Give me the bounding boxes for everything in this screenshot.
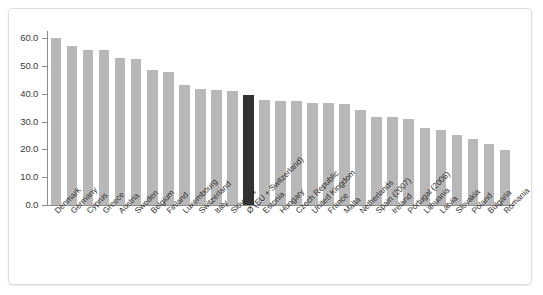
bar-austria[interactable] [115, 58, 126, 205]
bar-luxembourg[interactable] [179, 85, 190, 205]
bar-germany[interactable] [67, 46, 78, 205]
bar-finland[interactable] [163, 72, 174, 205]
bar-netherlands[interactable] [355, 110, 366, 205]
bar-greece[interactable] [99, 50, 110, 205]
bars-layer [0, 0, 543, 205]
bar-sweden[interactable] [131, 59, 142, 205]
y-tick-mark [42, 205, 48, 206]
bar-chart: 60.050.040.030.020.010.00.0 DenmarkGerma… [0, 0, 543, 295]
bar-denmark[interactable] [51, 38, 62, 205]
bar-belgium[interactable] [147, 70, 158, 205]
bar-cyprus[interactable] [83, 50, 94, 205]
